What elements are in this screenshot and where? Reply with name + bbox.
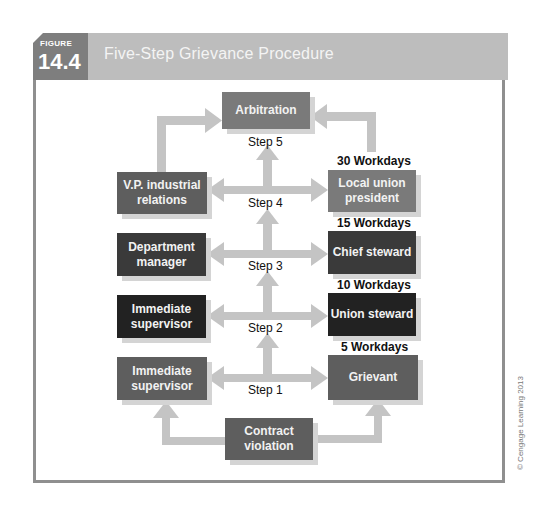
workdays-5-label: 5 Workdays xyxy=(341,340,408,354)
step4-label: Step 4 xyxy=(248,196,283,210)
immediate-supervisor-step2-box: Immediate supervisor xyxy=(117,295,206,338)
immediate-supervisor-step1-box: Immediate supervisor xyxy=(117,357,207,400)
step5-label: Step 5 xyxy=(248,135,283,149)
local-union-president-box: Local union president xyxy=(328,170,416,212)
arbitration-box: Arbitration xyxy=(222,92,310,129)
contract-to-grievant-arrow xyxy=(312,435,382,443)
step3-label: Step 3 xyxy=(248,259,283,273)
step1-label: Step 1 xyxy=(248,383,283,397)
contract-violation-box: Contract violation xyxy=(225,418,313,460)
chief-steward-box: Chief steward xyxy=(328,231,416,274)
union-steward-box: Union steward xyxy=(328,293,416,336)
contract-to-supervisor-arrow xyxy=(162,437,226,445)
workdays-30-label: 30 Workdays xyxy=(337,154,411,168)
copyright-notice: © Cengage Learning 2013 xyxy=(516,376,525,470)
grievant-box: Grievant xyxy=(328,355,418,400)
workdays-10-label: 10 Workdays xyxy=(337,278,411,292)
department-manager-box: Department manager xyxy=(117,233,206,276)
workdays-15-label: 15 Workdays xyxy=(337,216,411,230)
step2-label: Step 2 xyxy=(248,321,283,335)
vp-industrial-relations-box: V.P. industrial relations xyxy=(117,172,207,214)
